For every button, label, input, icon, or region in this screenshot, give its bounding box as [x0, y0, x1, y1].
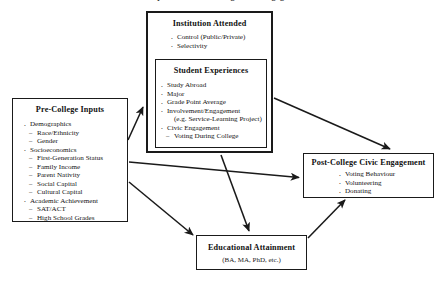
list-item: Voting Behaviour [338, 170, 433, 179]
list-item: SAT/ACT [23, 205, 127, 214]
list-item: Socioeconomics [23, 146, 127, 155]
list-item: Selectivity [170, 42, 271, 51]
arrow-precollege-to-educational-attainment [129, 182, 193, 235]
list-item: Voting During College [160, 132, 266, 141]
arrow-institution-to-postcollege [274, 98, 390, 149]
list-item: Gender [23, 137, 127, 146]
box-subtitle-educational-attainment: (BA, MA, PhD, etc.) [197, 256, 306, 264]
list-item: Grade Point Average [160, 98, 266, 107]
institution-attended-list: Control (Public/Private) Selectivity [170, 33, 271, 50]
list-item: Race/Ethnicity [23, 129, 127, 138]
box-title-educational-attainment: Educational Attainment [197, 243, 306, 252]
box-student-experiences: Student Experiences Study Abroad Major G… [155, 59, 267, 148]
list-item: Civic Engagement [160, 124, 266, 133]
list-item: High School Grades [23, 214, 127, 223]
list-item: (e.g. Service-Learning Project) [160, 115, 266, 124]
diagram-canvas: Conceptual Model of College Civic Engage… [0, 0, 441, 282]
box-title-post-college-civic-engagement: Post-College Civic Engagement [304, 158, 433, 167]
list-item: Control (Public/Private) [170, 33, 271, 42]
list-item: Volunteering [338, 179, 433, 188]
box-post-college-civic-engagement: Post-College Civic Engagement Voting Beh… [303, 153, 434, 198]
list-item: Demographics [23, 120, 127, 129]
box-pre-college-inputs: Pre-College Inputs Demographics Race/Eth… [12, 98, 128, 222]
box-educational-attainment: Educational Attainment (BA, MA, PhD, etc… [196, 235, 307, 270]
box-title-pre-college-inputs: Pre-College Inputs [13, 105, 127, 114]
arrow-institution-to-educational-attainment [221, 155, 249, 231]
post-college-civic-engagement-list: Voting Behaviour Volunteering Donating [338, 170, 433, 196]
student-experiences-list: Study Abroad Major Grade Point Average I… [160, 81, 266, 141]
list-item: Parent Nativity [23, 171, 127, 180]
page-title: Conceptual Model of College Civic Engage… [0, 0, 441, 1]
list-item: Study Abroad [160, 81, 266, 90]
list-item: Cultural Capital [23, 188, 127, 197]
list-item: Academic Achievement [23, 197, 127, 206]
list-item: Major [160, 90, 266, 99]
arrow-precollege-to-postcollege [129, 162, 299, 178]
arrow-educational-attainment-to-postcollege [308, 200, 345, 238]
box-title-student-experiences: Student Experiences [156, 66, 266, 75]
list-item: Family Income [23, 163, 127, 172]
list-item: First-Generation Status [23, 154, 127, 163]
list-item: Involvement/Engagement [160, 107, 266, 116]
list-item: Donating [338, 187, 433, 196]
pre-college-inputs-list: Demographics Race/Ethnicity Gender Socio… [23, 120, 127, 222]
arrow-precollege-to-institution [128, 107, 143, 140]
box-title-institution-attended: Institution Attended [148, 19, 271, 28]
box-institution-attended: Institution Attended Control (Public/Pri… [146, 11, 273, 153]
list-item: Social Capital [23, 180, 127, 189]
